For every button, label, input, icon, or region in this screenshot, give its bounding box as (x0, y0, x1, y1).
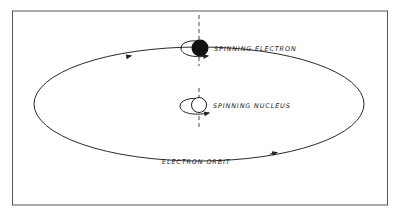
spin-orbit-diagram: SPINNING ELECTRON SPINNING NUCLEUS ELECT… (0, 0, 398, 214)
orbit-arrow-top-left-icon (126, 56, 131, 57)
spinning-nucleus (180, 88, 209, 129)
orbit-arrow-bottom-right-icon (270, 153, 277, 155)
orbit-label: ELECTRON ORBIT (162, 158, 231, 166)
spinning-electron (181, 15, 209, 66)
electron-label: SPINNING ELECTRON (214, 45, 297, 53)
electron-ball (192, 40, 209, 57)
nucleus-label: SPINNING NUCLEUS (213, 102, 291, 110)
nucleus-ball (192, 98, 207, 113)
